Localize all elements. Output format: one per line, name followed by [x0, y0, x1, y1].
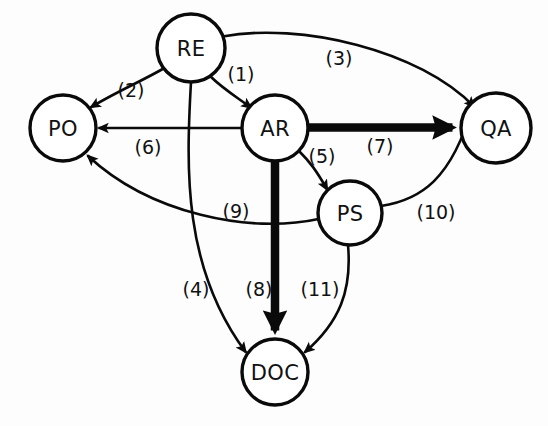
edge-label-4: (4): [183, 278, 210, 300]
diagram-canvas: RE PO AR QA PS DOC (1) (2) (3) (4) (5) (…: [0, 0, 548, 426]
node-po-label: PO: [48, 117, 78, 141]
edge-label-2: (2): [118, 79, 145, 101]
edge-label-6: (6): [135, 136, 162, 158]
edge-label-10: (10): [416, 201, 455, 223]
node-doc[interactable]: DOC: [242, 339, 308, 405]
node-ar-label: AR: [260, 117, 290, 141]
edge-label-5: (5): [309, 145, 336, 167]
node-po[interactable]: PO: [30, 95, 96, 161]
edge-label-9: (9): [223, 200, 250, 222]
edge-9-path: [88, 156, 319, 224]
node-re[interactable]: RE: [157, 14, 225, 82]
edge-label-11: (11): [300, 278, 339, 300]
node-doc-label: DOC: [251, 361, 299, 385]
edge-10-path: [381, 105, 473, 207]
edge-label-7: (7): [367, 135, 394, 157]
node-ps[interactable]: PS: [318, 181, 382, 245]
edge-label-3: (3): [326, 47, 353, 69]
directed-graph-svg: RE PO AR QA PS DOC (1) (2) (3) (4) (5) (…: [0, 0, 548, 426]
edge-label-1: (1): [228, 63, 255, 85]
node-ar[interactable]: AR: [242, 95, 308, 161]
node-ps-label: PS: [337, 202, 364, 226]
node-qa[interactable]: QA: [461, 93, 531, 163]
edge-3-path: [223, 33, 475, 107]
edge-label-8: (8): [246, 278, 273, 300]
node-re-label: RE: [177, 37, 205, 61]
node-qa-label: QA: [480, 117, 512, 141]
